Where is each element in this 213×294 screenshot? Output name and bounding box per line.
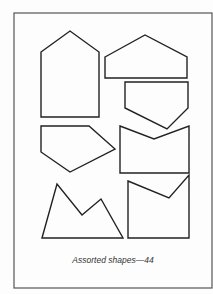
wide-pentagon xyxy=(105,35,187,78)
downward-pentagon xyxy=(125,82,188,129)
shapes-group xyxy=(41,31,189,238)
shapes-figure xyxy=(0,0,213,294)
left-pentagon xyxy=(41,126,115,172)
worksheet-page: Assorted shapes—44 xyxy=(0,0,213,294)
figure-caption: Assorted shapes—44 xyxy=(13,255,213,265)
tall-pentagon-house xyxy=(41,31,99,117)
mountain-shape xyxy=(42,184,123,238)
notched-rectangle xyxy=(120,126,189,173)
notched-square xyxy=(128,175,189,238)
